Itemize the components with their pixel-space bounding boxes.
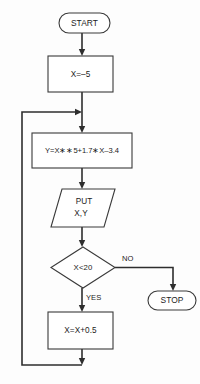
node-increment[interactable]: X=X+0.5 [48, 312, 113, 349]
flowchart-diagram: START X=–5 Y=X∗∗5+1.7∗X–3.4 PUT X,Y X<20… [0, 0, 200, 384]
compute-label: Y=X∗∗5+1.7∗X–3.4 [45, 146, 119, 155]
output-label-line1: PUT [76, 197, 93, 206]
node-output[interactable]: PUT X,Y [51, 189, 115, 227]
node-decision[interactable]: X<20 [51, 247, 115, 288]
arrowhead-loop-join [75, 109, 82, 115]
start-label: START [71, 18, 98, 28]
arrowhead-init [79, 49, 85, 56]
init-label: X=–5 [71, 70, 91, 79]
edge-label-no: NO [122, 254, 133, 263]
node-init[interactable]: X=–5 [48, 56, 113, 92]
decision-label: X<20 [74, 263, 93, 272]
node-stop[interactable]: STOP [148, 291, 196, 310]
arrowhead-output [79, 182, 85, 189]
stop-label: STOP [160, 295, 183, 305]
arrowhead-stop [170, 284, 176, 291]
arrowhead-loop-bottom [79, 358, 85, 365]
edge-label-yes: YES [86, 293, 101, 302]
connector-no-branch [115, 268, 173, 287]
arrowhead-decision [79, 240, 85, 247]
node-compute[interactable]: Y=X∗∗5+1.7∗X–3.4 [32, 133, 132, 168]
output-label-line2: X,Y [74, 209, 88, 218]
arrowhead-compute [79, 126, 85, 133]
increment-label: X=X+0.5 [64, 326, 97, 335]
arrowhead-increment [79, 305, 85, 312]
node-start[interactable]: START [59, 13, 110, 33]
flowchart-canvas: START X=–5 Y=X∗∗5+1.7∗X–3.4 PUT X,Y X<20… [0, 0, 200, 384]
